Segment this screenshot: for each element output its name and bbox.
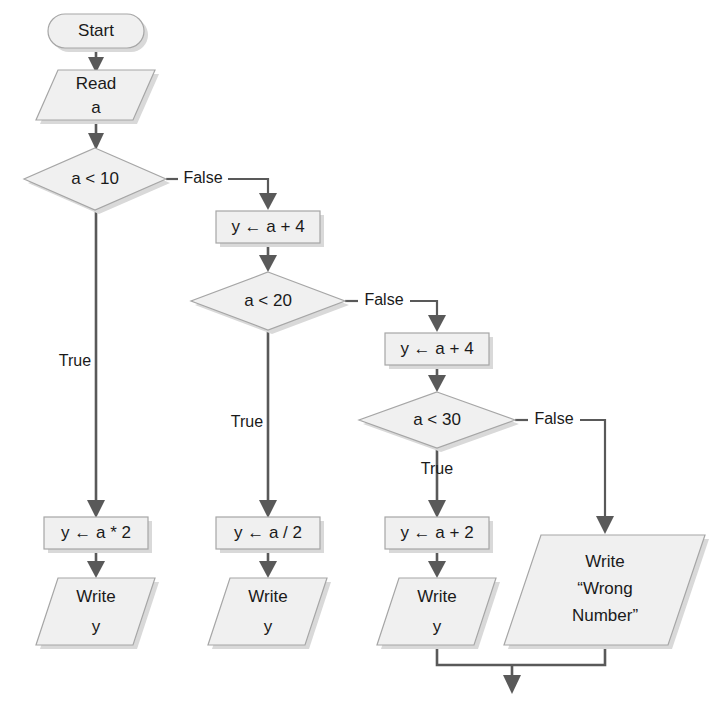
connector-box-a2-to-write1 — [87, 550, 105, 578]
connector-read-to-decision1 — [88, 120, 104, 150]
node-decision-a-lt-10[interactable]: a < 10 — [24, 148, 170, 214]
connector-box2-to-decision3 — [428, 365, 446, 392]
node-read-a-line1: Read — [76, 74, 117, 93]
node-write-y-2-line2: y — [264, 617, 273, 636]
node-write-y-1[interactable]: Write y — [36, 578, 159, 649]
node-decision-a-lt-10-label: a < 10 — [71, 169, 119, 188]
flowchart-svg: Start Read a a < 10 False True y ← a + 4 — [0, 0, 722, 715]
node-write-wrong-number-line2: “Wrong — [577, 579, 632, 598]
node-read-a-line2: a — [91, 98, 101, 117]
node-write-wrong-number-line3: Number” — [572, 606, 638, 625]
node-write-wrong-number[interactable]: Write “Wrong Number” — [504, 535, 709, 649]
node-start[interactable]: Start — [48, 14, 148, 52]
connector-box-adiv2-to-write2 — [259, 550, 277, 578]
edge-label-false-1: False — [183, 169, 222, 186]
node-start-label: Start — [78, 21, 114, 40]
node-assign-y-a-div-2[interactable]: y ← a / 2 — [216, 517, 324, 553]
node-assign-y-a-times-2-label: y ← a * 2 — [61, 523, 131, 542]
node-assign-y-a-plus-4-first[interactable]: y ← a + 4 — [216, 211, 324, 247]
node-write-y-2[interactable]: Write y — [208, 578, 331, 649]
connector-box-aplus2-to-write3 — [428, 550, 446, 578]
edge-label-false-2: False — [364, 291, 403, 308]
node-assign-y-a-plus-2-label: y ← a + 2 — [400, 523, 473, 542]
node-decision-a-lt-30-label: a < 30 — [413, 410, 461, 429]
flowchart-canvas: Start Read a a < 10 False True y ← a + 4 — [0, 0, 722, 715]
node-decision-a-lt-20-label: a < 20 — [244, 291, 292, 310]
connector-decision3-false — [515, 420, 614, 534]
connector-decision3-true — [428, 448, 446, 518]
node-write-y-1-line2: y — [92, 617, 101, 636]
node-read-a[interactable]: Read a — [36, 70, 159, 124]
connector-box1-to-decision2 — [259, 243, 277, 272]
node-assign-y-a-div-2-label: y ← a / 2 — [234, 523, 302, 542]
edge-label-false-3: False — [534, 410, 573, 427]
node-assign-y-a-times-2[interactable]: y ← a * 2 — [44, 517, 152, 553]
node-write-y-2-line1: Write — [248, 587, 287, 606]
connector-merge-bottom — [437, 645, 605, 694]
node-write-y-3-line1: Write — [417, 587, 456, 606]
node-assign-y-a-plus-4-second[interactable]: y ← a + 4 — [385, 333, 493, 369]
edge-label-true-3: True — [421, 460, 453, 477]
edge-label-true-1: True — [59, 352, 91, 369]
node-write-y-3[interactable]: Write y — [377, 578, 500, 649]
node-write-wrong-number-line1: Write — [585, 552, 624, 571]
node-write-y-3-line2: y — [433, 617, 442, 636]
node-decision-a-lt-30[interactable]: a < 30 — [359, 392, 519, 452]
node-assign-y-a-plus-2[interactable]: y ← a + 2 — [385, 517, 493, 553]
edge-label-true-2: True — [231, 413, 263, 430]
node-assign-y-a-plus-4-second-label: y ← a + 4 — [400, 339, 473, 358]
node-write-y-1-line1: Write — [76, 587, 115, 606]
node-decision-a-lt-20[interactable]: a < 20 — [191, 272, 349, 334]
node-assign-y-a-plus-4-first-label: y ← a + 4 — [231, 217, 304, 236]
